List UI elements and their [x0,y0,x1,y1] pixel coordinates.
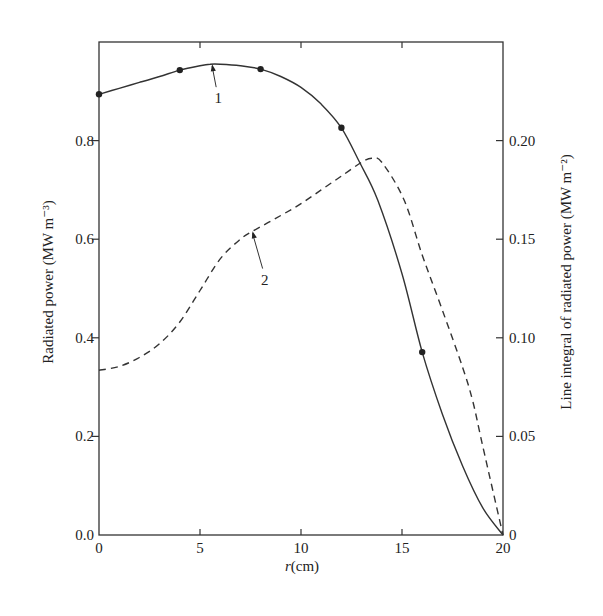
tick-labels: 051015200.00.20.40.60.800.050.100.150.20 [75,133,535,556]
x-tick-label: 10 [294,540,309,556]
y-tick-label-right: 0.05 [509,428,535,444]
data-point [338,125,344,131]
y-tick-label-left: 0.6 [75,231,94,247]
curve-label-2: 2 [261,272,269,288]
arrowhead [211,64,216,71]
y-axis-label-right: Line integral of radiated power (MW m⁻²) [558,154,575,409]
x-tick-label: 15 [395,540,410,556]
plot-border [99,42,503,535]
chart: 051015200.00.20.40.60.800.050.100.150.20… [0,0,603,616]
axis-ticks [92,42,503,535]
data-point [177,67,183,73]
y-tick-label-left: 0.4 [75,330,94,346]
curve-label-1: 1 [214,90,222,106]
y-tick-label-left: 0.8 [75,133,94,149]
data-point [96,91,102,97]
curves [99,64,503,535]
curve-1 [99,64,503,535]
y-tick-label-right: 0.10 [509,330,535,346]
curve-2 [99,158,503,535]
data-point [419,349,425,355]
curve-annotations: 12 [211,64,269,287]
x-tick-label: 0 [95,540,103,556]
data-markers [96,66,426,355]
x-axis-label: r(cm) [285,558,319,575]
annotation-arrow [253,233,263,268]
y-tick-label-right: 0.20 [509,133,535,149]
y-tick-label-right: 0.15 [509,231,535,247]
y-tick-label-left: 0.0 [75,527,94,543]
y-axis-label-left: Radiated power (MW m⁻³) [40,200,57,363]
data-point [257,66,263,72]
plot-frame [99,42,503,535]
y-tick-label-right: 0 [509,527,517,543]
y-tick-label-left: 0.2 [75,428,94,444]
arrowhead [252,231,257,238]
x-tick-label: 5 [196,540,204,556]
